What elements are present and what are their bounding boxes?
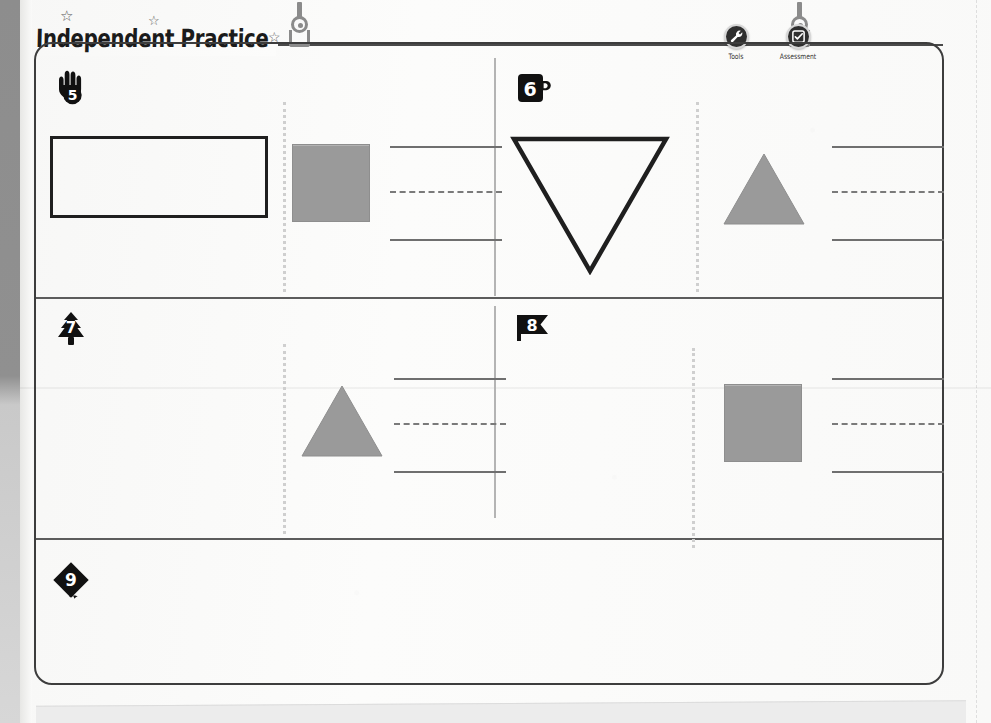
answer-line-bottom (832, 239, 944, 241)
bottom-strip (36, 700, 966, 723)
problem-number-text-7: 7 (66, 319, 76, 337)
section-divider-1 (36, 297, 942, 299)
problem-8: 8 (496, 300, 942, 538)
answer-line-bottom (394, 471, 506, 473)
page-left-edge (20, 0, 32, 723)
dotted-separator (692, 348, 695, 548)
dotted-separator (283, 102, 286, 292)
problem-number-text-5: 5 (68, 87, 78, 103)
shape-rectangle-outline (50, 136, 268, 218)
answer-line-top (832, 146, 944, 148)
problem-number-text-8: 8 (526, 316, 537, 335)
answer-line-top (832, 378, 944, 380)
problem-number-badge-5: 5 (50, 66, 94, 110)
problem-number-text-9: 9 (65, 570, 77, 590)
problem-number-badge-6: 6 (510, 66, 554, 110)
problem-9: 9 (36, 541, 942, 681)
answer-line-middle (390, 191, 502, 193)
answer-line-top (394, 378, 506, 380)
answer-line-middle (832, 191, 944, 193)
problem-7: 7 (36, 300, 494, 538)
answer-lines-6[interactable] (832, 146, 944, 246)
answer-line-top (390, 146, 502, 148)
shape-square-filled (724, 384, 802, 462)
answer-lines-5[interactable] (390, 146, 502, 246)
answer-line-bottom (390, 239, 502, 241)
problem-number-badge-8: 8 (510, 308, 554, 352)
star-decoration-1: ☆ (60, 8, 73, 23)
shape-triangle-up-filled (300, 384, 384, 458)
answer-lines-7[interactable] (394, 378, 506, 478)
answer-lines-8[interactable] (832, 378, 944, 478)
dotted-separator (283, 344, 286, 534)
shape-square-filled (292, 144, 370, 222)
problem-number-badge-7: 7 (50, 308, 94, 352)
page-fold-line (976, 0, 977, 723)
worksheet-page: ☆ ☆ ☆ Independent Practice Tools (0, 0, 991, 723)
answer-line-bottom (832, 471, 944, 473)
problem-number-text-6: 6 (523, 78, 536, 100)
left-gutter-bar (0, 0, 20, 723)
problem-number-badge-9: 9 (50, 559, 94, 603)
shape-triangle-down-outline (510, 133, 670, 275)
section-divider-2 (36, 538, 942, 540)
answer-line-middle (394, 423, 506, 425)
dotted-separator (696, 102, 699, 292)
shape-triangle-up-filled (722, 152, 806, 226)
problem-5: 5 (36, 58, 494, 296)
problem-6: 6 (496, 58, 942, 296)
answer-line-middle (832, 423, 944, 425)
